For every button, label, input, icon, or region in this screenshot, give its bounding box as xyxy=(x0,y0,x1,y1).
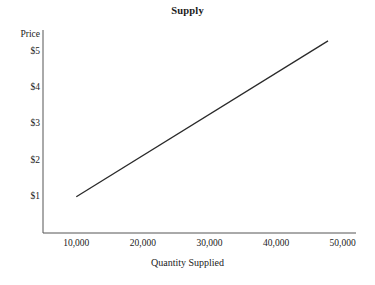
x-tick-label: 20,000 xyxy=(130,238,156,248)
x-axis-title: Quantity Supplied xyxy=(0,257,375,268)
x-tick-label: 10,000 xyxy=(63,238,89,248)
x-tick-label: 30,000 xyxy=(196,238,222,248)
supply-chart: Supply Price $1$2$3$4$5 10,00020,00030,0… xyxy=(0,0,375,285)
supply-curve xyxy=(76,41,328,197)
plot-area xyxy=(0,0,375,285)
x-tick-label: 50,000 xyxy=(330,238,356,248)
y-tick-label: $3 xyxy=(6,118,40,128)
y-tick-label: $1 xyxy=(6,191,40,201)
y-tick-label: $4 xyxy=(6,82,40,92)
x-tick-label: 40,000 xyxy=(263,238,289,248)
y-tick-label: $5 xyxy=(6,46,40,56)
y-tick-label: $2 xyxy=(6,155,40,165)
